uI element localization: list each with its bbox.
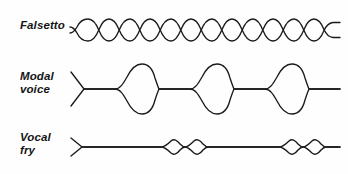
waveform-modal-voice xyxy=(68,58,348,120)
figure-row-vocal-fry: Vocal fry xyxy=(0,120,348,174)
vocal-fry-svg xyxy=(68,120,348,174)
row-label-vocal-fry: Vocal fry xyxy=(20,131,51,157)
falsetto-svg xyxy=(68,0,348,58)
row-label-falsetto: Falsetto xyxy=(20,19,65,32)
waveform-falsetto xyxy=(68,0,348,58)
modal-upper-fold xyxy=(71,64,340,89)
waveform-vocal-fry xyxy=(68,120,348,174)
row-label-modal-voice: Modal voice xyxy=(20,70,54,96)
vocal-fold-figure: Falsetto Modal voice Vocal fry xyxy=(0,0,348,174)
figure-row-modal-voice: Modal voice xyxy=(0,58,348,120)
modal-lower-fold xyxy=(71,89,340,114)
modal-voice-svg xyxy=(68,58,348,120)
fry-upper-fold xyxy=(71,138,340,147)
fry-lower-fold xyxy=(71,147,340,156)
figure-row-falsetto: Falsetto xyxy=(0,0,348,58)
